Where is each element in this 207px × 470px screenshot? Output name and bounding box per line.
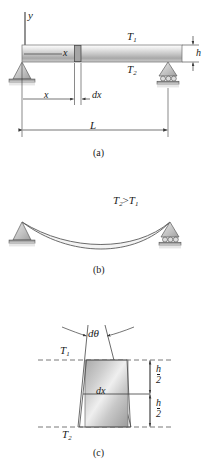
angle-label-dtheta: dθ — [88, 328, 99, 339]
figure-beam-thermal-bending: y x T1 T2 h x dx L (a) T2>T1 (b) dθ T1 T… — [0, 0, 207, 470]
dimension-label-x: x — [44, 90, 48, 100]
beam-dx-slice — [75, 45, 82, 61]
t2-subscript-c: 2 — [68, 434, 71, 441]
element-label-dx: dx — [96, 386, 105, 396]
pin-support-left-b — [9, 222, 35, 246]
dimension-h-over-2-upper-label: h 2 — [156, 364, 161, 385]
figure-vector-canvas — [0, 0, 207, 470]
panel-c-graphics — [38, 325, 172, 427]
panel-b-graphics — [9, 222, 181, 249]
dtheta-leader-right — [107, 327, 134, 336]
two-denominator-lower: 2 — [156, 409, 161, 419]
condition-label-t2-gt-t1: T2>T1 — [113, 195, 138, 208]
dtheta-leader-left — [62, 327, 87, 336]
two-denominator-upper: 2 — [156, 375, 161, 385]
roller-support-right — [157, 62, 179, 87]
cond-t1-subscript: 1 — [135, 200, 138, 207]
temperature-label-t2: T2 — [127, 64, 137, 77]
caption-c: (c) — [93, 448, 104, 458]
deflected-beam — [22, 222, 170, 249]
beam-x-label: x — [63, 48, 67, 58]
beam-body — [22, 45, 182, 62]
dimension-label-L: L — [90, 120, 96, 131]
dimension-label-dx: dx — [92, 90, 101, 100]
h-numerator-upper: h — [156, 364, 161, 374]
dimension-h-over-2-lower-label: h 2 — [156, 398, 161, 419]
t1-subscript-c: 1 — [66, 350, 69, 357]
caption-a: (a) — [93, 148, 104, 158]
height-label-h: h — [196, 48, 201, 58]
roller-support-right-b — [159, 222, 181, 248]
t2-subscript: 2 — [133, 69, 136, 76]
panel-a-graphics — [9, 12, 199, 137]
temperature-label-t1: T1 — [127, 31, 137, 44]
h-numerator-lower: h — [156, 398, 161, 408]
temperature-label-t2-c: T2 — [62, 429, 72, 442]
element-block — [85, 360, 128, 427]
temperature-label-t1-c: T1 — [60, 345, 70, 358]
t1-subscript: 1 — [133, 36, 136, 43]
axis-label-y: y — [28, 10, 33, 21]
caption-b: (b) — [93, 265, 105, 275]
